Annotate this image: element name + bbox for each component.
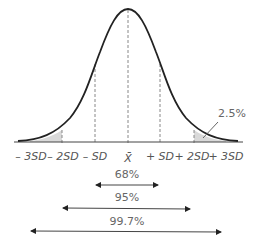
- normal-curve-diagram: 2.5% – 3SD – 2SD – SD X̄ + SD + 2SD + 3S…: [0, 0, 253, 249]
- range-95-arrow: [63, 208, 190, 209]
- sd-dashed-lines: [62, 10, 194, 144]
- tick-minus-2sd: – 2SD: [47, 150, 78, 163]
- tick-plus-sd: + SD: [146, 150, 174, 163]
- range-95-label: 95%: [115, 191, 139, 204]
- tick-minus-sd: – SD: [83, 150, 107, 163]
- range-997-label: 99.7%: [110, 215, 145, 228]
- tick-plus-2sd: + 2SD: [174, 150, 209, 163]
- range-68-label: 68%: [115, 168, 139, 181]
- range-997-arrow: [31, 231, 221, 232]
- tick-plus-3sd: + 3SD: [208, 150, 243, 163]
- tail-label: 2.5%: [218, 107, 246, 120]
- tick-minus-3sd: – 3SD: [15, 150, 46, 163]
- tick-mean: X̄: [123, 152, 132, 165]
